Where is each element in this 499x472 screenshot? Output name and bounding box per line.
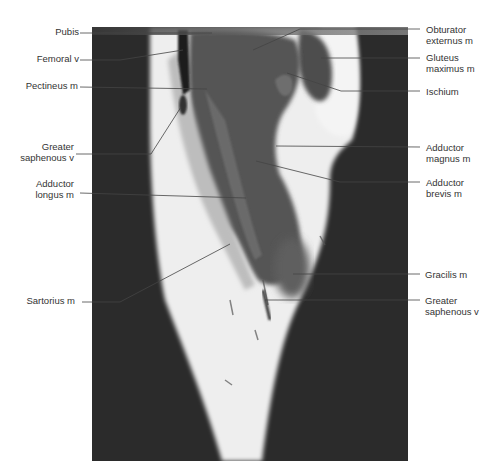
label-femoral-v: Femoral v: [37, 53, 79, 64]
top-band: [92, 27, 408, 35]
greater-saphenous-upper-shadow: [179, 95, 187, 115]
label-adductor-longus-m: Adductor longus m: [35, 178, 74, 200]
label-ischium: Ischium: [426, 86, 459, 97]
label-pectineus-m: Pectineus m: [26, 80, 78, 91]
mri-figure: Pubis Femoral v Pectineus m Greater saph…: [0, 0, 499, 472]
label-sartorius-m: Sartorius m: [26, 295, 75, 306]
label-obturator-externus-m: Obturator externus m: [426, 24, 473, 46]
label-adductor-brevis-m: Adductor brevis m: [426, 177, 464, 199]
label-greater-saphenous-v-upper: Greater saphenous v: [20, 141, 74, 163]
label-greater-saphenous-v-lower: Greater saphenous v: [425, 295, 479, 317]
label-gluteus-maximus-m: Gluteus maximus m: [426, 52, 475, 74]
label-adductor-magnus-m: Adductor magnus m: [426, 142, 470, 164]
label-pubis: Pubis: [55, 26, 79, 37]
gracilis-muscle: [274, 238, 310, 298]
mri-image: [0, 0, 499, 472]
label-gracilis-m: Gracilis m: [425, 269, 467, 280]
